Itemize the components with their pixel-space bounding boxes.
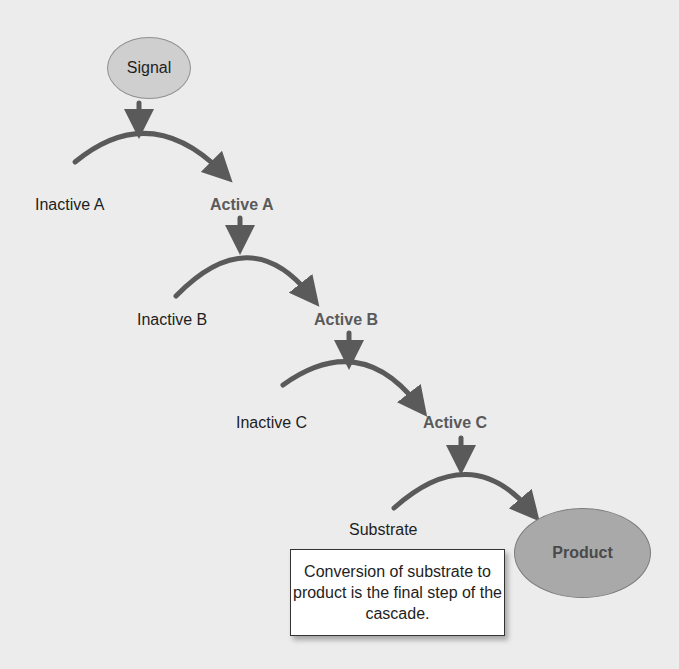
curved-arrow-icon — [75, 133, 222, 172]
note-text: Conversion of substrate to product is th… — [291, 561, 504, 624]
active-a-label: Active A — [210, 196, 273, 214]
inactive-b-label: Inactive B — [137, 311, 207, 329]
signal-node: Signal — [107, 37, 191, 99]
curved-arrow-icon — [394, 474, 530, 510]
cascade-diagram: Signal Inactive A Active A Inactive B Ac… — [0, 0, 679, 669]
product-node: Product — [514, 508, 651, 598]
note-box: Conversion of substrate to product is th… — [290, 549, 505, 636]
substrate-label: Substrate — [349, 521, 417, 539]
curved-arrow-icon — [176, 258, 310, 296]
inactive-a-label: Inactive A — [35, 196, 104, 214]
curved-arrow-icon — [283, 362, 418, 405]
active-c-label: Active C — [423, 414, 487, 432]
active-b-label: Active B — [314, 311, 378, 329]
inactive-c-label: Inactive C — [236, 414, 307, 432]
